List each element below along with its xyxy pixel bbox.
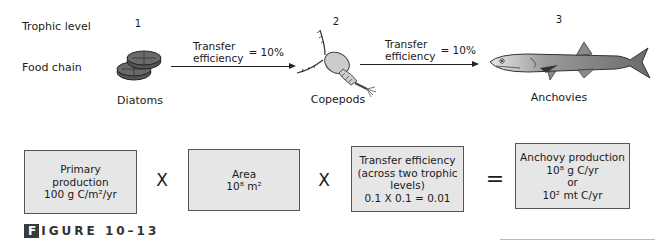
anchovy-icon [488, 38, 658, 86]
box-line: 100 g C/m²/yr [44, 188, 117, 201]
arrow-diatoms-to-copepods [171, 63, 296, 69]
box-line: 10⁸ m² [226, 180, 261, 193]
box-line: Primary [44, 163, 117, 176]
trophic-level-3: 3 [549, 14, 569, 25]
diatoms-label: Diatoms [110, 94, 170, 107]
copepods-label: Copepods [305, 93, 371, 106]
box-line: or [520, 176, 625, 189]
box-line: levels) [357, 179, 457, 192]
transfer-value: = 10% [248, 46, 283, 58]
transfer-efficiency-box: Transfer efficiency (across two trophic … [351, 146, 464, 212]
box-line: 10² mt C/yr [520, 189, 625, 202]
transfer-label-line1: Transfer [385, 38, 435, 50]
figure-label-text: IGURE 10–13 [41, 224, 159, 238]
area-box: Area 10⁸ m² [188, 149, 300, 211]
primary-production-box: Primary production 100 g C/m²/yr [24, 150, 137, 214]
box-line: Area [226, 168, 261, 181]
anchovy-production-box: Anchovy production 10⁸ g C/yr or 10² mt … [515, 143, 630, 209]
food-chain-label: Food chain [22, 61, 82, 74]
transfer-efficiency-2: Transfer efficiency = 10% [385, 38, 476, 62]
figure-label-initial: F [24, 224, 39, 238]
transfer-label-line1: Transfer [193, 40, 243, 52]
arrow-head-icon [472, 61, 479, 67]
box-line: Anchovy production [520, 151, 625, 164]
anchovies-label: Anchovies [526, 91, 592, 104]
trophic-level-label: Trophic level [22, 20, 91, 33]
box-line: 0.1 X 0.1 = 0.01 [357, 192, 457, 205]
bottom-rule [500, 239, 655, 240]
box-line: Transfer efficiency [357, 154, 457, 167]
box-line: production [44, 176, 117, 189]
transfer-efficiency-1: Transfer efficiency = 10% [193, 40, 284, 64]
trophic-level-1: 1 [128, 18, 148, 29]
diatoms-icon [114, 44, 164, 84]
arrow-copepods-to-anchovies [360, 61, 479, 67]
box-line: 10⁸ g C/yr [520, 164, 625, 177]
figure-label: F IGURE 10–13 [24, 224, 159, 238]
multiply-operator-2: X [312, 170, 336, 190]
transfer-value: = 10% [440, 44, 475, 56]
equals-operator: = [483, 166, 507, 191]
multiply-operator-1: X [150, 170, 174, 190]
box-line: (across two trophic [357, 167, 457, 180]
